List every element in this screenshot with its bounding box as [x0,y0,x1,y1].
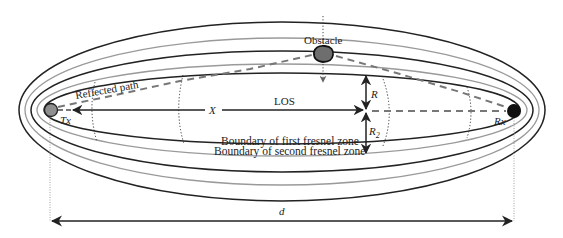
d-label: d [279,205,285,217]
tx-label: Tx [60,114,71,126]
los-label: LOS [274,95,295,107]
rx-label: Rx [493,115,506,127]
ellipse-group [19,22,545,201]
boundary-second-label: Boundary of second fresnel zone [214,145,365,158]
r-label: R [370,88,378,100]
fresnel-zone-diagram: Obstacle Reflected path X LOS R R2 Bound… [0,0,563,238]
tx-antenna-icon [45,104,58,117]
rx-antenna-icon [507,104,521,118]
obstacle-icon [314,46,333,62]
x-label: X [208,104,217,116]
r2-label: R2 [368,125,380,140]
obstacle-label: Obstacle [304,34,343,46]
